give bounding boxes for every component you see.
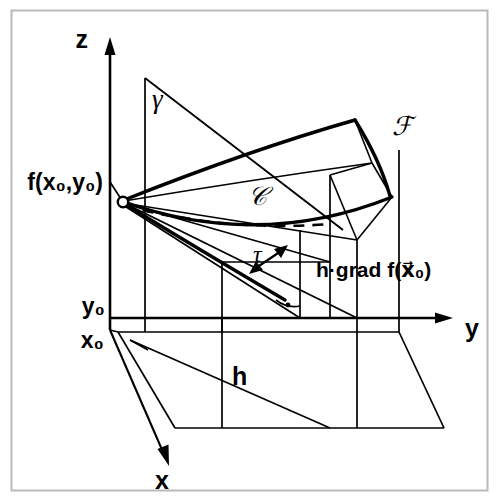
x-axis-arrowhead xyxy=(158,445,170,467)
axis-label-z: z xyxy=(76,25,89,53)
label-f-at-x0-y0: f(x₀,y₀) xyxy=(27,169,103,195)
right-angle-dot xyxy=(286,303,291,308)
label-x-zero: x₀ xyxy=(81,327,104,353)
y-axis-arrowhead xyxy=(435,313,453,324)
surface-ruling-connector-d xyxy=(330,175,357,240)
label-y-zero: y₀ xyxy=(82,293,105,319)
base-footprint-group xyxy=(118,332,444,428)
label-curve-C: 𝒞 xyxy=(248,182,274,211)
label-tau: τ xyxy=(253,241,263,267)
diagram-canvas: z y x f(x₀,y₀) γ ℱ 𝒞 τ h·grad f(x⃗₀) h y… xyxy=(0,0,498,504)
label-h-step: h xyxy=(232,362,247,390)
axis-label-x: x xyxy=(155,466,169,494)
label-surface-F: ℱ xyxy=(392,112,417,141)
right-angle-marker xyxy=(276,300,300,307)
image-border-frame xyxy=(12,11,488,491)
surface-ruling-connector-a xyxy=(330,163,372,175)
surface-rear-boundary xyxy=(124,120,355,200)
h-step-vector xyxy=(130,340,330,428)
z-axis-arrowhead xyxy=(105,37,116,55)
corner-tick-b xyxy=(130,340,148,350)
label-gamma: γ xyxy=(152,84,164,114)
base-right-edge xyxy=(399,332,444,428)
gamma-plane-group xyxy=(122,78,357,318)
surface-ruling-connector-b xyxy=(355,120,372,163)
origin-corner-ticks xyxy=(110,330,148,350)
figure-container: z y x f(x₀,y₀) γ ℱ 𝒞 τ h·grad f(x⃗₀) h y… xyxy=(0,0,498,504)
axis-label-y: y xyxy=(465,314,479,342)
label-h-grad-f: h·grad f(x⃗₀) xyxy=(316,258,431,281)
x-axis-line xyxy=(110,330,163,452)
point-marker-open-circle xyxy=(118,197,128,207)
tangent-plane-far-edge xyxy=(123,203,357,240)
